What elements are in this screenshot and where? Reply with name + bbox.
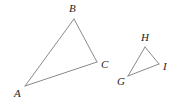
triangle-abc: A B C <box>13 2 109 99</box>
edge-hi <box>145 47 159 64</box>
triangle-ghi: G H I <box>117 31 168 87</box>
vertex-label-a: A <box>13 87 21 99</box>
edge-ig <box>128 64 159 76</box>
edge-bc <box>74 19 97 62</box>
similar-triangles-figure: A B C G H I <box>0 0 175 104</box>
vertex-label-b: B <box>69 2 76 14</box>
edge-gh <box>128 47 145 76</box>
edge-ca <box>25 62 97 86</box>
vertex-label-c: C <box>101 58 109 70</box>
figure-canvas: A B C G H I <box>0 0 175 104</box>
vertex-label-h: H <box>140 31 150 43</box>
vertex-label-i: I <box>162 60 168 72</box>
edge-ab <box>25 19 74 86</box>
vertex-label-g: G <box>117 75 125 87</box>
